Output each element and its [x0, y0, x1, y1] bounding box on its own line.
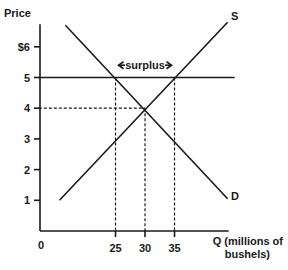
demand-curve: [65, 25, 227, 199]
x-tick-label: 25: [109, 242, 121, 254]
y-tick-label: 5: [24, 72, 30, 84]
x-axis-label-line2: bushels): [225, 248, 271, 260]
y-tick-label: 2: [24, 164, 30, 176]
demand-curve-label: D: [231, 190, 239, 202]
y-tick-label: 4: [24, 102, 31, 114]
x-tick-label: 30: [139, 242, 151, 254]
surplus-label: surplus: [125, 59, 165, 71]
y-tick-label: 1: [24, 194, 30, 206]
y-axis-label: Price: [4, 7, 31, 19]
supply-demand-chart: 12345$6253035 surplus Price 0 Q (million…: [0, 0, 288, 270]
x-tick-label: 35: [168, 242, 180, 254]
supply-curve: [60, 22, 228, 200]
x-axis-label-line1: Q (millions of: [213, 235, 284, 247]
origin-label: 0: [38, 239, 44, 251]
supply-curve-label: S: [231, 10, 238, 22]
y-tick-label: 3: [24, 133, 30, 145]
y-tick-label: $6: [18, 41, 30, 53]
surplus-annotation: surplus: [119, 59, 172, 71]
